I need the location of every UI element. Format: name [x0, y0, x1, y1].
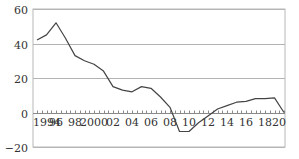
x-tick-label: 14 [220, 116, 234, 129]
y-tick-label: 60 [14, 4, 28, 17]
x-tick-label: 96 [49, 116, 63, 129]
y-tick-label: 0 [21, 108, 28, 121]
line-chart: 6040200−20 19949698200002040608101214161… [0, 0, 299, 159]
x-tick-label: 06 [144, 116, 158, 129]
x-axis-labels: 19949698200002040608101214161820 [33, 116, 286, 129]
y-tick-label: 20 [14, 73, 28, 86]
y-tick-label: 40 [14, 39, 28, 52]
x-tick-label: 16 [239, 116, 253, 129]
x-tick-label: 02 [106, 116, 120, 129]
x-tick-label: 12 [201, 116, 215, 129]
x-tick-label: 2000 [80, 116, 108, 129]
y-tick-label: −20 [5, 142, 28, 155]
x-tick-label: 04 [125, 116, 139, 129]
x-tick-label: 08 [163, 116, 177, 129]
x-tick-label: 20 [272, 116, 286, 129]
y-axis-labels: 6040200−20 [5, 4, 28, 155]
x-tick-label: 18 [258, 116, 272, 129]
x-axis [33, 111, 285, 114]
